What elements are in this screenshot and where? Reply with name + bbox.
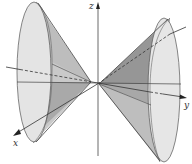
y-axis-arrow-icon — [180, 95, 188, 100]
x-axis-arrow-icon — [13, 129, 21, 136]
x-axis-label: x — [13, 138, 18, 148]
z-axis-arrow-icon — [96, 2, 100, 9]
y-axis-label: y — [183, 100, 190, 110]
left-cone — [17, 2, 91, 143]
right-base-ellipse — [148, 18, 180, 162]
double-cone-diagram: z y x — [0, 0, 192, 164]
z-axis: z — [88, 1, 100, 156]
z-axis-label: z — [88, 1, 94, 11]
